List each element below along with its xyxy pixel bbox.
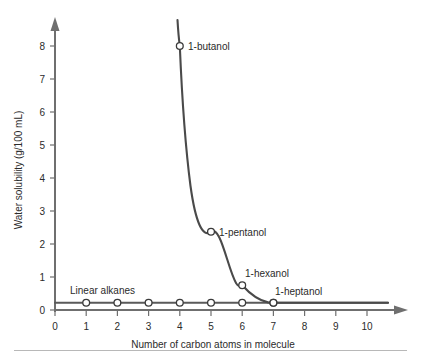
- x-tick-label-6: 6: [239, 321, 245, 332]
- marker-1-pentanol: [208, 228, 215, 235]
- x-tick-label-3: 3: [146, 321, 152, 332]
- annotation-linear-alkanes: Linear alkanes: [70, 285, 135, 296]
- x-tick-label-7: 7: [271, 321, 277, 332]
- annotation-1-pentanol: 1-pentanol: [219, 227, 266, 238]
- axes-group: [51, 17, 409, 315]
- y-tick-label-4: 4: [39, 173, 45, 184]
- x-axis-arrowhead: [394, 306, 408, 315]
- marker-1-hexanol: [239, 282, 246, 289]
- y-tick-label-7: 7: [39, 74, 45, 85]
- linear-alkanes-marker: [239, 299, 246, 306]
- y-tick-label-1: 1: [39, 272, 45, 283]
- x-axis-tick-labels: 0 1 2 3 4 5 6 7 8 9 10: [52, 321, 373, 332]
- x-tick-label-10: 10: [361, 321, 373, 332]
- x-tick-label-2: 2: [115, 321, 121, 332]
- x-tick-label-9: 9: [333, 321, 339, 332]
- y-tick-label-0: 0: [39, 305, 45, 316]
- chart-figure: 0 1 2 3 4 5 6 7 8 0 1 2: [0, 0, 421, 360]
- linear-alkanes-marker: [114, 299, 121, 306]
- x-tick-label-0: 0: [52, 321, 58, 332]
- y-tick-label-2: 2: [39, 239, 45, 250]
- x-tick-label-8: 8: [302, 321, 308, 332]
- y-tick-label-6: 6: [39, 107, 45, 118]
- chart-annotations: 1-butanol 1-pentanol 1-hexanol 1-heptano…: [70, 41, 322, 297]
- footer-divider: [14, 350, 407, 351]
- marker-1-heptanol: [270, 299, 277, 306]
- y-axis-arrowhead: [51, 17, 60, 31]
- solubility-line-chart: 0 1 2 3 4 5 6 7 8 0 1 2: [0, 0, 421, 360]
- y-axis-title: Water solubility (g/100 mL): [13, 111, 24, 230]
- annotation-1-butanol: 1-butanol: [188, 41, 230, 52]
- y-axis-tick-labels: 0 1 2 3 4 5 6 7 8: [39, 41, 45, 316]
- y-tick-label-8: 8: [39, 41, 45, 52]
- x-axis-title: Number of carbon atoms in molecule: [131, 339, 295, 350]
- linear-alkanes-marker: [176, 299, 183, 306]
- linear-alkanes-marker: [83, 299, 90, 306]
- x-tick-label-5: 5: [208, 321, 214, 332]
- series-alcohols: [176, 20, 388, 306]
- marker-1-butanol: [176, 43, 183, 50]
- x-tick-label-4: 4: [177, 321, 183, 332]
- alcohols-curve: [178, 20, 389, 303]
- y-tick-label-3: 3: [39, 206, 45, 217]
- linear-alkanes-marker: [145, 299, 152, 306]
- linear-alkanes-marker: [208, 299, 215, 306]
- annotation-1-heptanol: 1-heptanol: [275, 286, 322, 297]
- x-tick-label-1: 1: [83, 321, 89, 332]
- annotation-1-hexanol: 1-hexanol: [245, 268, 289, 279]
- y-tick-label-5: 5: [39, 140, 45, 151]
